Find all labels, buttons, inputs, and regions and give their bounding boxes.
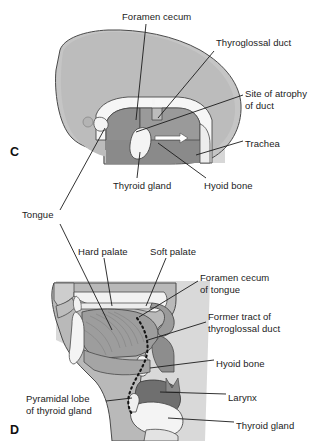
hard-palate xyxy=(78,303,152,309)
label-larynx: Larynx xyxy=(228,392,257,404)
neck-tissue-c xyxy=(106,140,200,163)
figure-container: Foramen cecum Thyroglossal duct Site of … xyxy=(0,0,323,441)
label-foramen-cecum-d-line1: Foramen cecum xyxy=(200,272,269,284)
label-tongue: Tongue xyxy=(22,209,53,221)
label-thyroid-gland-d: Thyroid gland xyxy=(236,420,294,432)
tongue-tip-notch xyxy=(94,117,108,131)
label-hyoid-bone-c: Hyoid bone xyxy=(204,180,253,192)
label-soft-palate: Soft palate xyxy=(150,246,196,258)
label-foramen-cecum: Foramen cecum xyxy=(122,11,191,23)
panel-letter-c: C xyxy=(10,145,19,159)
duct-notch-2 xyxy=(152,99,155,105)
label-former-tract-line2: thyroglossal duct xyxy=(208,323,280,335)
label-thyroglossal-duct: Thyroglossal duct xyxy=(216,37,291,49)
label-site-of-atrophy-line2: of duct xyxy=(245,100,274,112)
label-pyramidal-lobe-line1: Pyramidal lobe xyxy=(26,393,90,405)
label-hard-palate: Hard palate xyxy=(78,246,128,258)
duct-notch-1 xyxy=(130,99,133,105)
anatomy-illustration xyxy=(0,0,323,441)
label-pyramidal-lobe-line2: of thyroid gland xyxy=(26,405,92,417)
label-foramen-cecum-d-line2: of tongue xyxy=(200,284,240,296)
label-thyroid-gland-c: Thyroid gland xyxy=(113,180,171,192)
label-site-of-atrophy-line1: Site of atrophy xyxy=(245,88,307,100)
label-trachea: Trachea xyxy=(245,138,280,150)
otic-vesicle xyxy=(83,117,93,127)
panel-letter-d: D xyxy=(10,423,19,437)
label-hyoid-bone-d: Hyoid bone xyxy=(216,358,265,370)
label-former-tract-line1: Former tract of xyxy=(208,311,271,323)
